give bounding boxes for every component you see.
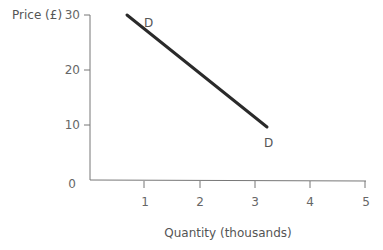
y-tick-label-10: 10 bbox=[65, 118, 80, 132]
x-tick-label-1: 1 bbox=[141, 195, 149, 209]
x-tick-label-4: 4 bbox=[306, 195, 314, 209]
demand-chart: 30 20 10 0 1 2 3 4 5 Price (£) Quantity … bbox=[0, 0, 383, 250]
demand-label-top: D bbox=[144, 16, 153, 30]
y-axis-label: Price (£) bbox=[12, 8, 62, 22]
y-tick-label-0: 0 bbox=[68, 177, 76, 191]
x-axis-label: Quantity (thousands) bbox=[164, 226, 291, 240]
demand-curve bbox=[127, 15, 267, 127]
x-tick-label-5: 5 bbox=[362, 195, 370, 209]
x-tick-label-2: 2 bbox=[196, 195, 204, 209]
y-tick-label-30: 30 bbox=[65, 8, 80, 22]
demand-label-bottom: D bbox=[264, 136, 273, 150]
y-tick-label-20: 20 bbox=[65, 63, 80, 77]
x-axis bbox=[90, 180, 366, 181]
x-tick-label-3: 3 bbox=[251, 195, 259, 209]
